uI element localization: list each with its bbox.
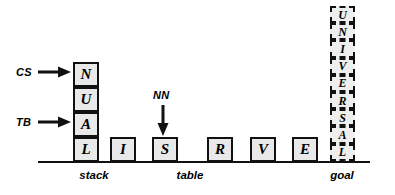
table-block-e-4: E: [292, 137, 318, 162]
table-block-s-1: S: [152, 137, 178, 162]
caption-goal: goal: [320, 170, 364, 182]
goal-block-i-2: I: [330, 40, 355, 57]
stack-block-a-2: A: [73, 112, 99, 137]
goal-block-r-5: R: [330, 92, 355, 109]
pointer-label-nn: NN: [153, 90, 169, 101]
goal-block-e-4: E: [330, 75, 355, 92]
goal-block-v-3: V: [330, 58, 355, 75]
goal-block-a-7: A: [330, 126, 355, 143]
goal-block-n-1: N: [330, 23, 355, 40]
stack-block-u-1: U: [73, 87, 99, 112]
arrow-cs-icon: [38, 66, 72, 78]
arrow-nn-icon: [157, 105, 169, 137]
table-block-i-0: I: [110, 137, 136, 162]
table-block-r-2: R: [207, 137, 233, 162]
stack-block-l-3: L: [73, 137, 99, 162]
caption-table: table: [168, 170, 212, 182]
caption-stack: stack: [72, 170, 116, 182]
pointer-label-tb: TB: [16, 117, 31, 128]
goal-block-l-8: L: [330, 144, 355, 161]
table-block-v-3: V: [250, 137, 276, 162]
arrow-tb-icon: [38, 116, 72, 128]
pointer-label-cs: CS: [16, 67, 32, 78]
goal-block-u-0: U: [330, 6, 355, 23]
planning-state-diagram: NUAL ISRVE UNIVERSAL CSTBNN stack table …: [0, 0, 395, 195]
stack-block-n-0: N: [73, 62, 99, 87]
goal-block-s-6: S: [330, 109, 355, 126]
